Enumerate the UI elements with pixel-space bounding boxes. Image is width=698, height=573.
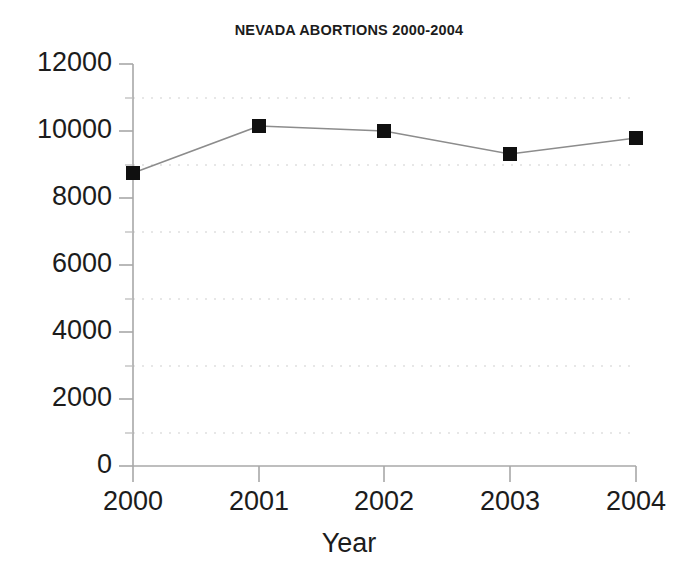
data-point-marker (252, 119, 266, 133)
y-tick-label-8000: 8000 (0, 183, 112, 210)
x-ticks (133, 466, 636, 482)
data-point-marker (503, 147, 517, 161)
y-tick-label-4000: 4000 (0, 317, 112, 344)
x-tick-label-2000: 2000 (63, 488, 203, 515)
y-tick-label-6000: 6000 (0, 250, 112, 277)
data-point-marker (377, 124, 391, 138)
x-axis-title: Year (0, 528, 698, 559)
y-tick-label-2000: 2000 (0, 384, 112, 411)
y-tick-label-12000: 12000 (0, 49, 112, 76)
data-point-marker (126, 166, 140, 180)
y-major-ticks (119, 64, 133, 466)
data-points (126, 119, 643, 180)
x-tick-label-2002: 2002 (314, 488, 454, 515)
y-tick-label-0: 0 (0, 451, 112, 478)
y-tick-label-10000: 10000 (0, 116, 112, 143)
x-tick-label-2001: 2001 (189, 488, 329, 515)
x-tick-label-2003: 2003 (440, 488, 580, 515)
chart-figure: NEVADA ABORTIONS 2000-2004 (0, 0, 698, 573)
data-point-marker (629, 131, 643, 145)
x-tick-label-2004: 2004 (566, 488, 698, 515)
